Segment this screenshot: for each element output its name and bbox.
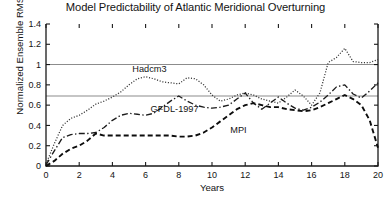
svg-text:2: 2	[77, 170, 82, 180]
data-series	[46, 48, 378, 166]
svg-text:0: 0	[36, 161, 41, 171]
series-line-mpi	[46, 95, 378, 166]
svg-text:0.4: 0.4	[28, 121, 41, 131]
svg-text:18: 18	[340, 170, 350, 180]
svg-text:6: 6	[143, 170, 148, 180]
axes-frame	[46, 24, 378, 166]
svg-text:20: 20	[373, 170, 383, 180]
svg-text:10: 10	[207, 170, 217, 180]
svg-text:1: 1	[36, 60, 41, 70]
series-line-hadcm3	[46, 48, 378, 164]
svg-text:4: 4	[110, 170, 115, 180]
svg-text:12: 12	[240, 170, 250, 180]
chart-figure: Model Predictability of Atlantic Meridio…	[0, 0, 391, 202]
series-labels: Hadcm3GFDL-1997MPI	[132, 64, 246, 135]
y-axis-ticks: 00.20.40.60.811.21.4	[28, 19, 378, 171]
series-label-hadcm3: Hadcm3	[132, 64, 166, 74]
series-label-mpi: MPI	[230, 125, 246, 135]
svg-text:1.4: 1.4	[28, 19, 41, 29]
svg-text:0: 0	[43, 170, 48, 180]
svg-text:0.8: 0.8	[28, 80, 41, 90]
gridlines	[46, 65, 378, 96]
svg-text:16: 16	[307, 170, 317, 180]
svg-text:1.2: 1.2	[28, 39, 41, 49]
plot-area: 00.20.40.60.811.21.4 02468101214161820 H…	[0, 0, 391, 202]
series-line-gfdl-1997	[46, 83, 378, 165]
series-label-gfdl-1997: GFDL-1997	[151, 104, 199, 114]
svg-text:14: 14	[273, 170, 283, 180]
svg-text:0.6: 0.6	[28, 100, 41, 110]
svg-text:8: 8	[176, 170, 181, 180]
svg-text:0.2: 0.2	[28, 141, 41, 151]
